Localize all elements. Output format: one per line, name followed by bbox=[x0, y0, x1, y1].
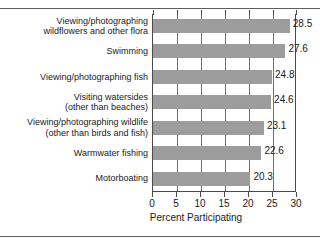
category-label: Visiting watersides(other than beaches) bbox=[0, 92, 148, 113]
category-label-line: (other than beaches) bbox=[0, 102, 148, 113]
bar-row: 24.8 bbox=[153, 65, 295, 90]
category-axis-labels: Viewing/photographingwildflowers and oth… bbox=[0, 14, 148, 192]
bar-value-label: 27.6 bbox=[285, 42, 307, 56]
bar-rows: 28.527.624.824.623.122.620.3 bbox=[153, 14, 295, 191]
category-label: Viewing/photographing wildlife(other tha… bbox=[0, 117, 148, 138]
category-label-line: (other than birds and fish) bbox=[0, 128, 148, 139]
bar-value-label: 23.1 bbox=[264, 119, 286, 133]
bar[interactable] bbox=[153, 121, 264, 135]
category-label-line: Visiting watersides bbox=[0, 92, 148, 103]
x-tick-label: 30 bbox=[290, 198, 301, 210]
bar-row: 28.5 bbox=[153, 14, 295, 39]
x-tick-mark bbox=[296, 192, 297, 197]
x-axis-title: Percent Participating bbox=[0, 212, 320, 223]
x-tick-label: 5 bbox=[173, 198, 179, 210]
bar[interactable] bbox=[153, 95, 271, 109]
x-axis: 051015202530 bbox=[152, 192, 296, 214]
bar-value-label: 24.8 bbox=[272, 68, 294, 82]
category-label-line: Viewing/photographing bbox=[0, 16, 148, 27]
category-label: Motorboating bbox=[0, 173, 148, 184]
bar[interactable] bbox=[153, 172, 250, 186]
bar-value-label: 24.6 bbox=[271, 93, 293, 107]
top-tick-mark bbox=[296, 10, 297, 15]
bar[interactable] bbox=[153, 70, 272, 84]
category-label: Viewing/photographing fish bbox=[0, 72, 148, 83]
x-tick-mark bbox=[272, 192, 273, 197]
category-label: Viewing/photographingwildflowers and oth… bbox=[0, 16, 148, 37]
x-axis-title-text: Percent Participating bbox=[150, 212, 242, 223]
x-tick-mark bbox=[200, 192, 201, 197]
bar-row: 24.6 bbox=[153, 90, 295, 115]
bar-value-label: 20.3 bbox=[250, 170, 272, 184]
top-rule bbox=[0, 8, 320, 9]
x-tick-label: 25 bbox=[266, 198, 277, 210]
category-label: Swimming bbox=[0, 46, 148, 57]
x-tick-mark bbox=[152, 192, 153, 197]
x-tick-label: 0 bbox=[149, 198, 155, 210]
plot-area: 28.527.624.824.623.122.620.3 bbox=[152, 14, 296, 192]
x-tick-mark bbox=[224, 192, 225, 197]
category-label-line: wildflowers and other flora bbox=[0, 26, 148, 37]
bar-row: 27.6 bbox=[153, 39, 295, 64]
bar[interactable] bbox=[153, 146, 261, 160]
category-label-line: Swimming bbox=[0, 46, 148, 57]
bar-row: 23.1 bbox=[153, 116, 295, 141]
x-tick-label: 20 bbox=[242, 198, 253, 210]
category-label-line: Viewing/photographing wildlife bbox=[0, 117, 148, 128]
bar-row: 22.6 bbox=[153, 141, 295, 166]
bar[interactable] bbox=[153, 44, 285, 58]
category-label-line: Warmwater fishing bbox=[0, 148, 148, 159]
x-tick-label: 15 bbox=[218, 198, 229, 210]
figure: Viewing/photographingwildflowers and oth… bbox=[0, 0, 320, 247]
bar-row: 20.3 bbox=[153, 167, 295, 192]
bar[interactable] bbox=[153, 19, 290, 33]
category-label: Warmwater fishing bbox=[0, 148, 148, 159]
bar-value-label: 22.6 bbox=[261, 144, 283, 158]
bar-value-label: 28.5 bbox=[290, 17, 312, 31]
category-label-line: Motorboating bbox=[0, 173, 148, 184]
category-label-line: Viewing/photographing fish bbox=[0, 72, 148, 83]
bar-chart: Viewing/photographingwildflowers and oth… bbox=[0, 14, 320, 199]
x-tick-mark bbox=[248, 192, 249, 197]
bottom-rule bbox=[0, 236, 320, 237]
x-tick-label: 10 bbox=[194, 198, 205, 210]
x-tick-mark bbox=[176, 192, 177, 197]
